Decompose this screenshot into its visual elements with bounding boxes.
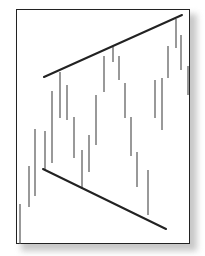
chart-canvas bbox=[0, 0, 205, 256]
trendlines bbox=[43, 15, 182, 229]
price-bars bbox=[20, 19, 188, 244]
upper-resistance-trendline bbox=[44, 15, 182, 77]
